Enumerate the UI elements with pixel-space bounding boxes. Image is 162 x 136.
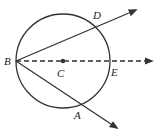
- ray-bd: [16, 10, 136, 61]
- ray-ba: [16, 61, 117, 128]
- label-b: B: [4, 55, 11, 67]
- label-c: C: [57, 67, 65, 79]
- center-point-c: [61, 59, 65, 63]
- label-a: A: [73, 109, 81, 121]
- label-e: E: [110, 66, 118, 78]
- geometry-diagram: B C D E A: [0, 0, 162, 136]
- label-d: D: [92, 9, 101, 21]
